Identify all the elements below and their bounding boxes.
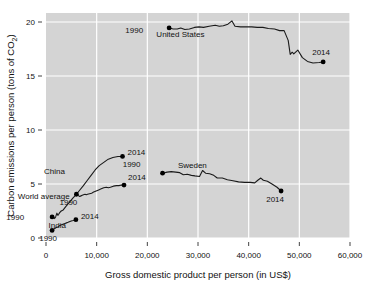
annotation-china-end: 2014 — [128, 148, 146, 157]
scatter-line-chart: 19902014United States19902014Sweden19902… — [0, 0, 373, 295]
endpoint-united-states-end — [321, 60, 326, 65]
x-tick-label: 60,000 — [338, 251, 363, 260]
y-tick-label: 15 — [26, 72, 35, 81]
annotation-sweden-end: 2014 — [266, 195, 284, 204]
x-tick-label: 0 — [44, 251, 49, 260]
annotation-china-label: China — [44, 167, 65, 176]
y-tick-label: 20 — [26, 18, 35, 27]
annotation-sweden-start: 1990 — [123, 160, 141, 169]
chart-container: 19902014United States19902014Sweden19902… — [0, 0, 373, 295]
annotation-world-label: World average — [18, 192, 70, 201]
endpoint-world-average-start — [74, 192, 79, 197]
x-tick-label: 10,000 — [84, 251, 109, 260]
annotation-united-states-end: 2014 — [312, 48, 330, 57]
annotation-india-start: 1990 — [39, 234, 57, 243]
x-tick-label: 40,000 — [236, 251, 261, 260]
annotation-sweden-label: Sweden — [178, 161, 207, 170]
endpoint-china-end — [120, 154, 125, 159]
annotation-india-end: 2014 — [81, 212, 99, 221]
x-axis-title: Gross domestic product per person (in US… — [105, 269, 291, 280]
y-axis-title: Carbon emissions per person (tons of CO2… — [5, 34, 18, 216]
endpoint-india-end — [73, 217, 78, 222]
y-axis-title-tail: ) — [5, 34, 16, 37]
annotation-india-label: India — [49, 221, 67, 230]
x-tick-label: 50,000 — [287, 251, 312, 260]
endpoint-sweden-end — [279, 189, 284, 194]
endpoint-sweden-start — [160, 171, 165, 176]
endpoint-world-average-end — [122, 183, 127, 188]
annotation-united-states-label: United States — [156, 30, 204, 39]
endpoint-china-start — [50, 215, 55, 220]
y-axis-title-main: Carbon emissions per person (tons of CO — [5, 41, 16, 216]
x-tick-label: 30,000 — [186, 251, 211, 260]
annotation-world-end: 2014 — [128, 173, 146, 182]
x-tick-label: 20,000 — [135, 251, 160, 260]
y-tick-label: 0 — [31, 234, 36, 243]
y-tick-label: 5 — [31, 180, 36, 189]
annotation-united-states-start: 1990 — [125, 26, 143, 35]
y-tick-label: 10 — [26, 126, 35, 135]
